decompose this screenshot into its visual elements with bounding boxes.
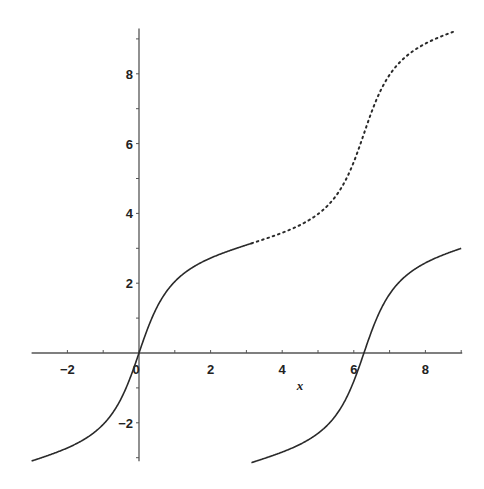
curves <box>32 32 462 463</box>
y-tick-label: 2 <box>126 276 133 291</box>
x-ticks: −202468 <box>60 350 461 377</box>
solid-curve-1 <box>32 243 252 461</box>
x-tick-label: −2 <box>60 362 75 377</box>
y-tick-label: −2 <box>118 416 133 431</box>
solid-curve-2 <box>251 248 461 462</box>
plot-area: −202468 −22468 x <box>0 0 484 489</box>
y-tick-label: 6 <box>126 137 133 152</box>
y-tick-label: 8 <box>126 67 133 82</box>
dotted-curve <box>251 32 454 244</box>
y-ticks: −22468 <box>118 39 139 458</box>
x-tick-label: 8 <box>422 362 429 377</box>
x-tick-label: 2 <box>207 362 214 377</box>
x-axis-label: x <box>296 378 304 393</box>
y-tick-label: 4 <box>126 206 134 221</box>
x-tick-label: 4 <box>279 362 287 377</box>
